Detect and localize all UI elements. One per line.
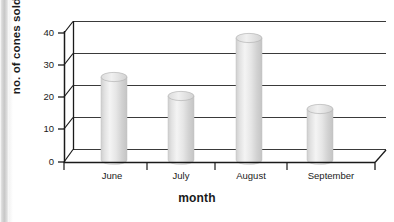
- y-tick-label-40: 40: [32, 27, 54, 38]
- x-tick-label-june: June: [78, 170, 146, 181]
- bar-july: [168, 91, 194, 164]
- bar-august: [236, 33, 262, 164]
- chart-canvas: no. of cones sold 40 30 20 10 0 June Jul…: [0, 0, 394, 222]
- bar-september: [307, 104, 333, 164]
- y-tick-label-10: 10: [32, 123, 54, 134]
- y-axis-title: no. of cones sold: [10, 0, 22, 106]
- depth-connectors: [64, 22, 73, 163]
- bar-june: [101, 72, 127, 164]
- x-tick-label-july: July: [147, 170, 215, 181]
- x-axis-title: month: [0, 191, 394, 205]
- x-tick-label-september: September: [287, 170, 375, 181]
- x-tick-label-august: August: [215, 170, 287, 181]
- y-tick-label-0: 0: [32, 156, 54, 167]
- y-tick-label-30: 30: [32, 59, 54, 70]
- y-tick-label-20: 20: [32, 91, 54, 102]
- chart-svg: [0, 0, 394, 222]
